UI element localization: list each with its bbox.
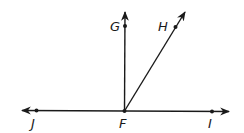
label-F: F [119, 116, 127, 131]
point-F [123, 109, 127, 113]
label-G: G [110, 19, 120, 34]
label-I: I [208, 116, 212, 131]
point-G [123, 24, 127, 28]
geometry-diagram: G H J F I [0, 0, 244, 133]
point-I [210, 110, 214, 114]
point-J [35, 109, 39, 113]
point-H [174, 25, 178, 29]
label-J: J [28, 116, 35, 131]
label-H: H [158, 19, 168, 34]
